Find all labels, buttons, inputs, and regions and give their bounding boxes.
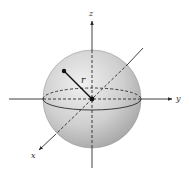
x-axis-label: x (31, 151, 36, 160)
sphere-diagram: r z y x (0, 0, 189, 174)
x-axis-front-arrow (39, 134, 56, 150)
z-axis-label: z (88, 9, 94, 18)
surface-point (62, 69, 66, 73)
radius-label: r (81, 75, 86, 85)
x-axis-back (128, 48, 143, 64)
center-point (90, 97, 95, 102)
y-axis-label: y (175, 94, 181, 103)
